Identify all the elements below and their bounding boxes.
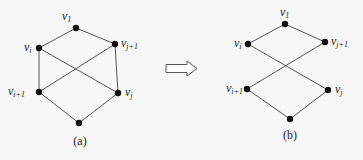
node-vi [245, 41, 251, 47]
edge-vi-vj [248, 44, 328, 90]
node-label-vi: vi [24, 40, 32, 55]
node-vj [115, 90, 121, 96]
node-vi [36, 45, 42, 51]
edge-vi-vj [39, 48, 118, 93]
edge-vi1-bottom [247, 89, 290, 119]
node-bottom [287, 116, 293, 122]
node-vj [325, 87, 331, 93]
node-vi1 [36, 89, 42, 95]
edge-v1-vi [39, 28, 76, 48]
edge-vj-bottom [79, 93, 118, 123]
node-vj1 [112, 41, 118, 47]
graph-b: v1vivj+1vi+1vj(b) [226, 5, 348, 142]
caption-graph-a: (a) [73, 134, 86, 148]
node-v1 [73, 25, 79, 31]
edge-vj-bottom [290, 90, 328, 119]
node-label-vj: vj [125, 85, 133, 100]
edge-vj1-vj [115, 44, 118, 93]
node-label-vj1: vj+1 [121, 36, 138, 51]
node-label-vj: vj [335, 82, 343, 97]
edge-v1-vi [248, 24, 285, 44]
graph-a: v1vivj+1vi+1vj(a) [8, 9, 138, 148]
edge-vi1-bottom [39, 92, 79, 123]
caption-graph-b: (b) [283, 128, 297, 142]
edge-v1-vj1 [285, 24, 325, 42]
edge-v1-vj1 [76, 28, 115, 44]
node-label-v1: v1 [62, 9, 71, 24]
node-label-vj1: vj+1 [331, 34, 348, 49]
node-v1 [282, 21, 288, 27]
node-label-vi1: vi+1 [226, 81, 243, 96]
node-label-vi1: vi+1 [8, 84, 25, 99]
node-bottom [76, 120, 82, 126]
node-vj1 [322, 39, 328, 45]
graph-transformation-diagram: v1vivj+1vi+1vj(a) v1vivj+1vi+1vj(b) [0, 0, 363, 160]
right-arrow-icon [166, 61, 197, 76]
node-label-vi: vi [234, 36, 242, 51]
node-vi1 [244, 86, 250, 92]
node-label-v1: v1 [280, 5, 289, 20]
